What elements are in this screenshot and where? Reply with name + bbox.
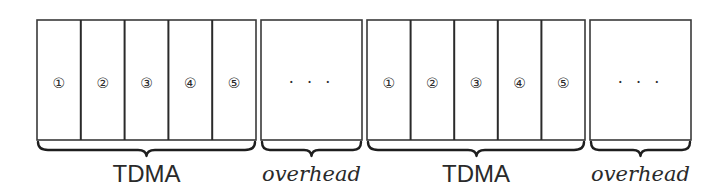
overhead-label: overhead bbox=[591, 162, 690, 186]
overhead-label: overhead bbox=[262, 162, 361, 186]
ellipsis-icon: · · · bbox=[289, 73, 334, 92]
ellipsis-icon: · · · bbox=[618, 73, 663, 92]
tdma-frame-1: ① ② ③ ④ ⑤ TDMA bbox=[37, 20, 256, 187]
slot-1-label: ① bbox=[383, 75, 396, 91]
tdma-frame-2: ① ② ③ ④ ⑤ TDMA bbox=[367, 20, 585, 187]
curly-brace-icon bbox=[368, 142, 584, 156]
curly-brace-icon bbox=[591, 142, 690, 156]
curly-brace-icon bbox=[262, 142, 361, 156]
slot-4-label: ④ bbox=[513, 75, 526, 91]
slot-1-label: ① bbox=[53, 75, 66, 91]
slot-5-label: ⑤ bbox=[228, 75, 241, 91]
slot-5-label: ⑤ bbox=[557, 75, 570, 91]
tdma-label: TDMA bbox=[442, 160, 510, 187]
slot-2-label: ② bbox=[96, 75, 109, 91]
slot-4-label: ④ bbox=[184, 75, 197, 91]
slot-3-label: ③ bbox=[140, 75, 153, 91]
slot-2-label: ② bbox=[426, 75, 439, 91]
overhead-1: · · · overhead bbox=[261, 20, 362, 186]
overhead-2: · · · overhead bbox=[590, 20, 691, 186]
tdma-label: TDMA bbox=[113, 160, 181, 187]
slot-3-label: ③ bbox=[470, 75, 483, 91]
curly-brace-icon bbox=[38, 142, 255, 156]
tdma-frame-diagram: ① ② ③ ④ ⑤ TDMA · · · overhead ① ② ③ ④ ⑤ … bbox=[0, 0, 726, 190]
